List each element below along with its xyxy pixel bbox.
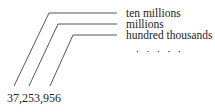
ellipsis-dots: . . . . . bbox=[136, 42, 183, 54]
leader-line-hundred-thousands bbox=[50, 35, 117, 86]
number-value: 37,253,956 bbox=[7, 91, 61, 106]
leader-line-millions bbox=[29, 24, 117, 86]
label-hundred-thousands: hundred thousands bbox=[126, 30, 213, 41]
